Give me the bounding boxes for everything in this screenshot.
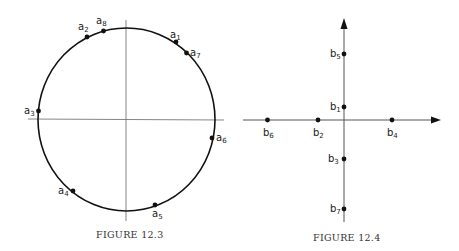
point-a6	[210, 136, 215, 141]
point-b4	[390, 118, 395, 123]
label-b6: b6	[263, 127, 274, 140]
point-a2	[85, 35, 90, 40]
y-axis-arrow-icon	[341, 18, 348, 29]
label-b1: b1	[330, 101, 341, 114]
label-b7: b7	[330, 203, 341, 216]
point-a4	[71, 189, 76, 194]
label-b4: b4	[387, 127, 398, 140]
point-b7	[342, 207, 347, 212]
label-b2: b2	[313, 127, 324, 140]
x-axis-arrow-icon	[431, 117, 441, 124]
figures-canvas: a1 a2 a3 a4 a5 a6 a7 a8 FIGURE 12.3 b5 b…	[0, 0, 459, 251]
figure-12-3: a1 a2 a3 a4 a5 a6 a7 a8 FIGURE 12.3	[24, 15, 227, 240]
label-a6: a6	[216, 132, 227, 145]
caption-figure-12-3: FIGURE 12.3	[96, 229, 164, 240]
point-a8	[101, 29, 106, 34]
label-a5: a5	[152, 208, 163, 221]
point-b5	[342, 52, 347, 57]
label-b3: b3	[328, 153, 339, 166]
point-b6	[265, 118, 270, 123]
point-a7	[184, 51, 189, 56]
label-b5: b5	[330, 48, 341, 61]
point-a3	[36, 109, 41, 114]
point-b2	[316, 118, 321, 123]
point-b3	[342, 157, 347, 162]
label-a2: a2	[78, 21, 89, 34]
label-a3: a3	[24, 105, 35, 118]
point-b1	[342, 105, 347, 110]
figure-12-4: b5 b1 b6 b2 b4 b3 b7 FIGURE 12.4	[243, 18, 441, 243]
label-a8: a8	[96, 15, 107, 28]
caption-figure-12-4: FIGURE 12.4	[313, 232, 381, 243]
point-a5	[153, 203, 158, 208]
